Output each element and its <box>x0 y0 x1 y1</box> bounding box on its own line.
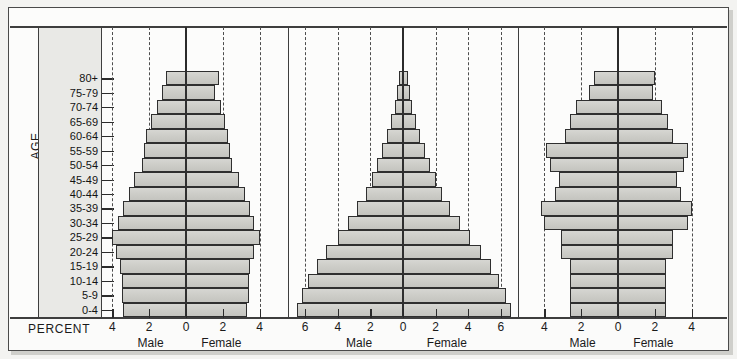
female-bar <box>618 172 677 186</box>
male-bar <box>570 259 618 273</box>
bars-layer <box>289 27 518 317</box>
female-bar <box>186 274 249 288</box>
female-bar <box>403 71 408 85</box>
pyramid-panel-3 <box>519 27 727 317</box>
axis-tickmark <box>338 309 339 318</box>
female-bar <box>403 158 430 172</box>
axis-tick-label: 2 <box>569 320 593 334</box>
axis-tick-label: 4 <box>326 320 350 334</box>
age-group-label: 75-79 <box>38 85 102 99</box>
pyramid-bar-row <box>289 172 518 186</box>
pyramid-bar-row <box>519 100 727 114</box>
age-group-label: 55-59 <box>38 143 102 157</box>
female-bar <box>403 288 506 302</box>
pyramid-bar-row <box>104 114 288 128</box>
female-bar <box>186 187 245 201</box>
male-bar <box>561 245 618 259</box>
female-bar <box>186 172 239 186</box>
female-bar <box>186 158 232 172</box>
female-bar <box>186 85 215 99</box>
axis-tick-label: 4 <box>680 320 704 334</box>
female-bar <box>186 201 250 215</box>
female-bar <box>186 288 249 302</box>
male-bar <box>122 288 186 302</box>
female-bar <box>618 129 673 143</box>
male-bar <box>544 216 618 230</box>
age-group-label: 20-24 <box>38 245 102 259</box>
axis-tickmark <box>692 309 693 318</box>
axis-tick-label: 6 <box>293 320 317 334</box>
male-bar <box>297 303 403 317</box>
pyramid-bar-row <box>519 187 727 201</box>
pyramid-bar-row <box>289 114 518 128</box>
male-bar <box>395 100 403 114</box>
axis-tickmark <box>260 309 261 318</box>
percent-axis-strip: PERCENT 42024MaleFemale6420246MaleFemale… <box>10 318 727 351</box>
age-group-label: 65-69 <box>38 114 102 128</box>
male-bar <box>166 71 186 85</box>
pyramid-bar-row <box>104 100 288 114</box>
percent-axis-title: PERCENT <box>28 322 90 336</box>
pyramid-bar-row <box>289 259 518 273</box>
bars-layer <box>104 27 288 317</box>
female-bar <box>186 114 225 128</box>
female-bar <box>618 201 692 215</box>
female-bar <box>403 303 511 317</box>
axis-tick-label: 4 <box>100 320 124 334</box>
axis-tick-label: 4 <box>532 320 556 334</box>
pyramid-bar-row <box>104 85 288 99</box>
female-bar <box>186 100 221 114</box>
male-bar <box>546 143 618 157</box>
axis-tick-label: 4 <box>456 320 480 334</box>
axis-tickmark <box>655 309 656 318</box>
male-bar <box>134 172 186 186</box>
female-bar <box>403 216 460 230</box>
male-bar <box>151 114 186 128</box>
age-group-label: 10-14 <box>38 274 102 288</box>
female-bar <box>186 216 254 230</box>
female-bar <box>618 288 666 302</box>
age-label-list: 80+75-7970-7465-6960-6455-5950-5445-4940… <box>38 71 102 317</box>
age-group-label: 0-4 <box>38 303 102 317</box>
female-bar <box>186 303 247 317</box>
female-bar <box>403 129 420 143</box>
male-bar <box>162 85 186 99</box>
male-bar <box>372 172 403 186</box>
pyramid-bar-row <box>289 71 518 85</box>
female-bar <box>618 71 655 85</box>
axis-tickmark <box>436 309 437 318</box>
male-axis-label: Male <box>116 336 186 350</box>
pyramid-bar-row <box>289 158 518 172</box>
male-bar <box>382 143 403 157</box>
male-axis-label: Male <box>548 336 618 350</box>
male-bar <box>541 201 618 215</box>
pyramid-bar-row <box>519 114 727 128</box>
bars-layer <box>519 27 727 317</box>
axis-tick-label: 2 <box>211 320 235 334</box>
pyramid-bar-row <box>519 129 727 143</box>
pyramid-bar-row <box>289 274 518 288</box>
pyramid-bar-row <box>104 288 288 302</box>
male-bar <box>348 216 403 230</box>
axis-tickmark <box>305 309 306 318</box>
population-pyramid-figure: AGE 80+75-7970-7465-6960-6455-5950-5445-… <box>0 0 737 359</box>
pyramid-bar-row <box>519 71 727 85</box>
male-bar <box>123 303 186 317</box>
pyramid-bar-row <box>104 71 288 85</box>
pyramid-bar-row <box>519 288 727 302</box>
female-bar <box>403 114 416 128</box>
female-bar <box>618 114 668 128</box>
pyramid-bar-row <box>104 216 288 230</box>
female-bar <box>618 230 673 244</box>
axis-tick-label: 6 <box>489 320 513 334</box>
male-bar <box>561 230 618 244</box>
axis-tick-label: 2 <box>137 320 161 334</box>
female-bar <box>403 230 470 244</box>
female-bar <box>403 187 442 201</box>
female-bar <box>618 143 688 157</box>
male-bar <box>302 288 403 302</box>
axis-tickmark <box>581 309 582 318</box>
axis-tickmark <box>618 309 619 318</box>
female-bar <box>403 259 491 273</box>
age-group-label: 80+ <box>38 71 102 85</box>
